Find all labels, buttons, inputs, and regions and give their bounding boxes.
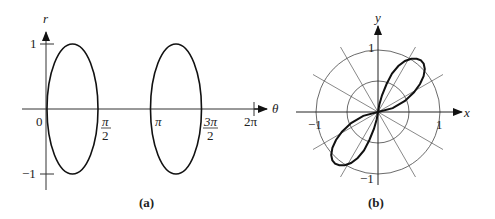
x-axis-label: x bbox=[463, 105, 470, 120]
y-tick-label-neg1: −1 bbox=[360, 171, 374, 186]
panel-b: y 1 −1 −1 1 x (b) bbox=[296, 10, 470, 210]
r-axis-label: r bbox=[43, 11, 49, 26]
y-axis-label: y bbox=[373, 10, 381, 25]
tick-pi2-num: π bbox=[102, 114, 109, 129]
tick-3pi2-num: 3π bbox=[203, 114, 218, 129]
tick-3pi2-den: 2 bbox=[207, 128, 214, 143]
figure: r 1 −1 0 π 2 π 3π 2 2π θ (a) y 1 −1 −1 bbox=[0, 0, 495, 219]
x-tick-label-1: 1 bbox=[436, 117, 443, 132]
caption-a: (a) bbox=[139, 195, 154, 210]
origin-label: 0 bbox=[36, 114, 43, 129]
r-tick-label-neg1: −1 bbox=[22, 166, 36, 181]
y-tick-label-1: 1 bbox=[368, 40, 375, 55]
tick-pi: π bbox=[155, 114, 162, 129]
x-tick-label-neg1: −1 bbox=[308, 117, 322, 132]
r-tick-label-1: 1 bbox=[30, 36, 37, 51]
theta-axis-label: θ bbox=[272, 101, 279, 116]
tick-pi2-den: 2 bbox=[102, 128, 109, 143]
panel-a: r 1 −1 0 π 2 π 3π 2 2π θ (a) bbox=[22, 11, 279, 210]
caption-b: (b) bbox=[368, 195, 384, 210]
tick-2pi: 2π bbox=[244, 114, 258, 129]
